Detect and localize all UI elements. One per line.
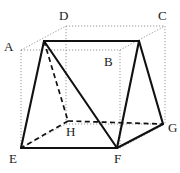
vertex-label-b: B <box>104 55 113 68</box>
vertex-label-h: H <box>66 125 75 138</box>
hidden-edge-H-G <box>68 121 163 124</box>
vertex-label-e: E <box>9 152 17 165</box>
vertex-label-a: A <box>4 40 13 53</box>
hidden-edge-P-H <box>44 41 68 121</box>
vertex-label-d: D <box>59 9 68 22</box>
prism-edge-P-E <box>21 41 44 148</box>
hidden-edge-H-E <box>21 121 68 148</box>
geometry-figure: ABCDEFGH <box>0 0 180 173</box>
vertex-label-f: F <box>114 152 121 165</box>
geometry-canvas <box>0 0 180 173</box>
cube-edge-B-C <box>120 26 165 50</box>
prism-base-edge-F-G <box>117 124 163 148</box>
vertex-label-g: G <box>168 121 177 134</box>
solid-edges-group <box>21 41 163 148</box>
vertex-label-c: C <box>158 9 167 22</box>
hidden-edges-group <box>21 41 163 148</box>
prism-edge-Q-G <box>139 41 163 124</box>
